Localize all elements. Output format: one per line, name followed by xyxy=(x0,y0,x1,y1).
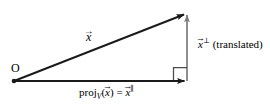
vector-arrow-icon: → xyxy=(103,82,112,91)
x-parallel-symbol: →x xyxy=(125,87,130,98)
proj-argument-symbol: →x xyxy=(105,87,110,98)
perpendicular-vector-label: →x⊥ (translated) xyxy=(198,39,263,50)
vector-diagram-canvas xyxy=(0,0,270,109)
x-vector-label: →x xyxy=(86,31,91,43)
translated-note-text: (translated) xyxy=(213,38,263,50)
x-vector-line xyxy=(14,15,184,82)
vector-arrow-icon: → xyxy=(84,26,94,36)
vector-arrow-icon: → xyxy=(123,82,132,91)
projection-equation-label: projV(→x) = →x∥ xyxy=(79,87,134,98)
x-vector-symbol: →x xyxy=(86,31,91,43)
vector-arrow-icon: → xyxy=(196,34,205,43)
origin-point-dot xyxy=(12,79,17,84)
proj-function-name: proj xyxy=(79,86,97,98)
x-perp-symbol: →x xyxy=(198,39,203,50)
origin-label: O xyxy=(11,62,20,74)
orthogonal-projection-diagram: O →x →x⊥ (translated) projV(→x) = →x∥ xyxy=(0,0,270,109)
right-angle-marker xyxy=(174,68,188,82)
origin-label-text: O xyxy=(11,61,20,75)
